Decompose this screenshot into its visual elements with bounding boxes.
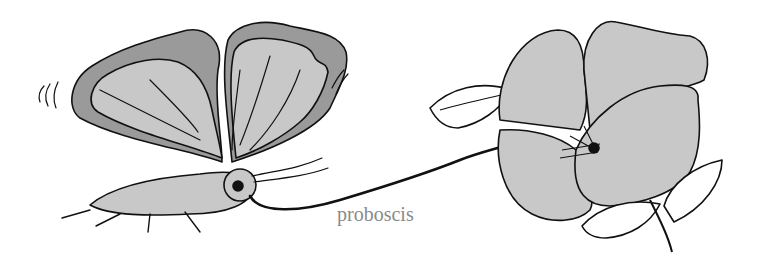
eye: [233, 181, 243, 191]
flower: [430, 22, 722, 252]
proboscis: [250, 140, 524, 209]
butterfly-flower-illustration: [0, 0, 763, 273]
proboscis-label: proboscis: [337, 203, 414, 226]
leaf-bottom: [582, 202, 660, 238]
petal-top-left: [499, 30, 586, 130]
butterfly: [39, 22, 348, 232]
diagram-canvas: proboscis: [0, 0, 763, 273]
